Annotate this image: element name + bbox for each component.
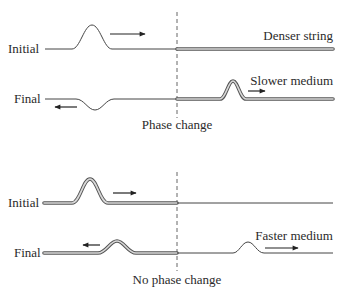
incident-pulse-thin-string: [45, 25, 177, 49]
phase-change-caption: Phase change: [142, 117, 213, 132]
no-phase-change-caption: No phase change: [133, 272, 222, 287]
final-label-top: Final: [14, 91, 41, 106]
denser-string-label: Denser string: [263, 28, 333, 43]
incident-pulse-dense-inner: [44, 179, 177, 203]
bottom-panel: Initial Final Faster medium No phase cha…: [8, 172, 333, 287]
reflected-upright-pulse-outer: [44, 241, 177, 253]
top-panel: Initial Denser string Final Slower mediu…: [8, 12, 333, 132]
initial-label-bottom: Initial: [8, 195, 39, 210]
initial-label-top: Initial: [8, 41, 39, 56]
wave-reflection-diagram: Initial Denser string Final Slower mediu…: [0, 0, 345, 298]
final-label-bottom: Final: [14, 245, 41, 260]
incident-pulse-dense-outer: [44, 179, 177, 203]
faster-medium-label: Faster medium: [255, 228, 333, 243]
transmitted-pulse-faster: [177, 242, 333, 253]
slower-medium-label: Slower medium: [250, 73, 333, 88]
reflected-inverted-pulse: [45, 99, 177, 110]
